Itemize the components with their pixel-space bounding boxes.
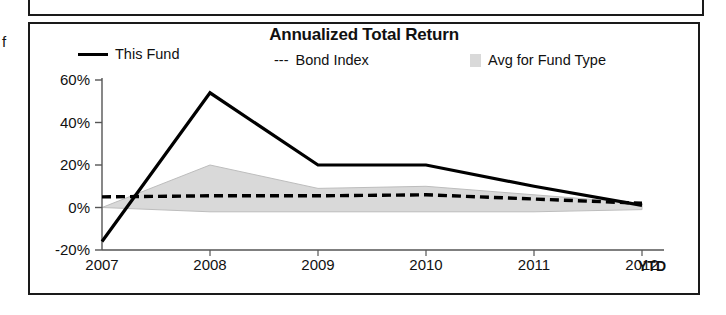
y-axis-tick-label: 0%: [32, 200, 90, 215]
y-axis-tick-label: 20%: [32, 157, 90, 172]
x-axis-tick-label: 2012: [612, 257, 672, 272]
margin-glyph: f: [2, 34, 6, 49]
panel-above-fragment: [28, 0, 704, 16]
x-axis-tick-label: 2007: [72, 257, 132, 272]
x-axis-tick-label: 2010: [396, 257, 456, 272]
y-axis-tick-label: 60%: [32, 72, 90, 87]
y-axis-tick-label: -20%: [32, 242, 90, 257]
x-axis-tick-label: 2009: [288, 257, 348, 272]
x-axis-tick-label: 2008: [180, 257, 240, 272]
y-axis-tick-label: 40%: [32, 115, 90, 130]
plot-area: [30, 24, 698, 293]
annualized-total-return-panel: Annualized Total Return This Fund --- Bo…: [28, 22, 700, 295]
x-axis-tick-label: 2011: [504, 257, 564, 272]
